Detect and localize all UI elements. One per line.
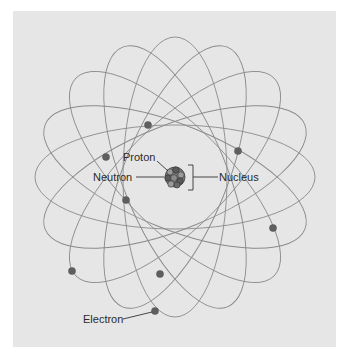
nucleus-label: Nucleus — [219, 172, 259, 183]
neutron-label: Neutron — [93, 172, 132, 183]
electron-icon — [269, 224, 277, 232]
electron-icon — [102, 153, 110, 161]
electron-icon — [144, 121, 152, 129]
electron-icon — [122, 196, 130, 204]
electron-icon — [68, 267, 76, 275]
proton-label: Proton — [123, 152, 155, 163]
electron-icon — [151, 307, 159, 315]
electron-leader — [123, 312, 152, 319]
electron-label: Electron — [83, 314, 123, 325]
atom-diagram — [0, 0, 350, 359]
nucleus-bracket — [188, 165, 193, 190]
electrons — [68, 121, 277, 315]
proton-leader — [157, 161, 168, 171]
nucleus-icon — [165, 167, 185, 188]
electron-icon — [234, 147, 242, 155]
electron-icon — [156, 270, 164, 278]
